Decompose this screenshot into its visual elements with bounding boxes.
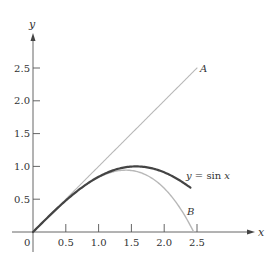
sin-curve-label: y = sin x xyxy=(185,170,230,181)
y-axis-arrow-icon xyxy=(31,33,36,41)
y-tick-label: 1.5 xyxy=(14,128,30,139)
origin-label: 0 xyxy=(24,237,30,248)
y-tick-labels: 0.51.01.52.02.5 xyxy=(14,63,30,205)
x-tick-label: 2.5 xyxy=(189,237,205,248)
x-tick-labels: 0.51.01.52.02.5 xyxy=(58,237,205,248)
y-ticks xyxy=(33,68,40,199)
y-axis-label: y xyxy=(28,18,36,31)
series-b-line xyxy=(33,170,194,232)
sin-label-x: x xyxy=(224,170,230,181)
y-tick-label: 1.0 xyxy=(14,161,30,172)
y-tick-label: 2.0 xyxy=(14,95,30,106)
y-tick-label: 2.5 xyxy=(14,63,30,74)
x-tick-label: 1.5 xyxy=(123,237,139,248)
x-tick-label: 0.5 xyxy=(58,237,74,248)
chart: 0.51.01.52.02.5 0.51.01.52.02.5 y x 0 A … xyxy=(0,0,270,263)
line-a-label: A xyxy=(199,63,207,74)
x-axis-label: x xyxy=(258,226,265,239)
x-axis-arrow-icon xyxy=(247,230,255,235)
y-tick-label: 0.5 xyxy=(14,194,30,205)
series xyxy=(33,68,197,232)
axes xyxy=(12,40,248,252)
x-tick-label: 1.0 xyxy=(91,237,107,248)
line-b-label: B xyxy=(186,206,194,217)
x-ticks xyxy=(66,224,197,232)
sin-label-eq: = sin xyxy=(192,170,225,181)
x-tick-label: 2.0 xyxy=(156,237,172,248)
series-sin-line xyxy=(33,166,190,232)
